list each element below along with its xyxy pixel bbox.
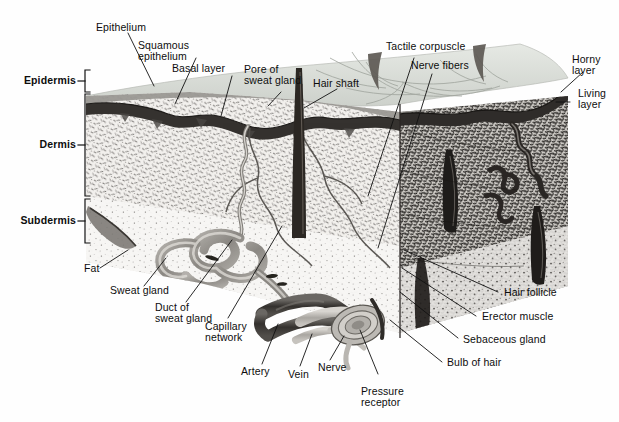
label-epithelium: Epithelium <box>96 22 146 34</box>
skin-diagram-figure: Epidermis Dermis Subdermis Epithelium Sq… <box>0 0 619 422</box>
label-pore-of-sweat-gland-line2: sweat gland <box>244 75 301 87</box>
layer-label-subdermis: Subdermis <box>6 215 76 227</box>
label-squamous-epithelium-line2: epithelium <box>138 51 187 63</box>
label-basal-layer: Basal layer <box>172 63 225 75</box>
label-artery: Artery <box>241 366 270 378</box>
label-living-layer-line2: layer <box>578 99 601 111</box>
label-hair-follicle: Hair follicle <box>504 287 557 299</box>
label-hair-shaft: Hair shaft <box>313 78 359 90</box>
label-erector-muscle: Erector muscle <box>482 311 553 323</box>
label-sweat-gland: Sweat gland <box>110 285 169 297</box>
label-duct-of-sweat-gland-line2: sweat gland <box>155 313 212 325</box>
layer-label-dermis: Dermis <box>6 139 76 151</box>
label-sebaceous-gland: Sebaceous gland <box>463 334 546 346</box>
label-nerve: Nerve <box>318 362 347 374</box>
label-fat: Fat <box>84 263 99 275</box>
label-horny-layer-line2: layer <box>572 65 595 77</box>
label-pressure-receptor-line2: receptor <box>361 397 400 409</box>
label-capillary-network-line2: network <box>205 332 242 344</box>
label-tactile-corpuscle: Tactile corpuscle <box>386 41 465 53</box>
label-vein: Vein <box>288 369 309 381</box>
label-nerve-fibers: Nerve fibers <box>411 60 469 72</box>
layer-label-epidermis: Epidermis <box>6 75 76 87</box>
label-bulb-of-hair: Bulb of hair <box>447 357 501 369</box>
skin-block-illustration <box>0 0 619 422</box>
